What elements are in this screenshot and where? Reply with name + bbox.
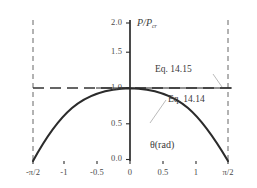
y-tick-label-1-0: 1.0 xyxy=(100,82,122,92)
x-tick-label-0: 0 xyxy=(118,167,142,177)
x-axis-title: θ(rad) xyxy=(150,139,174,150)
annotation-eq-14-14: Eq. 14.14 xyxy=(168,94,205,104)
eq-14-15-leader-line xyxy=(213,74,222,87)
y-tick-label-2-0: 2.0 xyxy=(100,17,122,27)
y-axis-title-subscript: cr xyxy=(152,23,157,29)
x-tick-label-neg-pi-over-2: -π/2 xyxy=(18,167,48,177)
y-tick-label-0-5: 0.5 xyxy=(100,118,122,128)
annotation-eq-14-15: Eq. 14.15 xyxy=(155,64,192,74)
y-tick-label-1-5: 1.5 xyxy=(100,46,122,56)
x-axis-ticks xyxy=(33,161,228,164)
x-tick-label-pi-over-2: π/2 xyxy=(215,167,241,177)
x-tick-label-neg-1: -1 xyxy=(51,167,77,177)
figure-container: 2.0 1.5 1.0 0.5 0.0 -π/2 -1 -0.5 0 0.5 1… xyxy=(0,0,257,188)
y-axis-title-main: P/P xyxy=(137,17,152,28)
plot-canvas xyxy=(0,0,257,188)
eq-14-14-leader-line xyxy=(150,100,166,123)
x-tick-label-neg-0-5: -0.5 xyxy=(82,167,112,177)
y-axis-title: P/Pcr xyxy=(137,17,157,29)
x-tick-label-1: 1 xyxy=(184,167,208,177)
y-tick-label-0-0: 0.0 xyxy=(100,153,122,163)
x-tick-label-0-5: 0.5 xyxy=(148,167,178,177)
